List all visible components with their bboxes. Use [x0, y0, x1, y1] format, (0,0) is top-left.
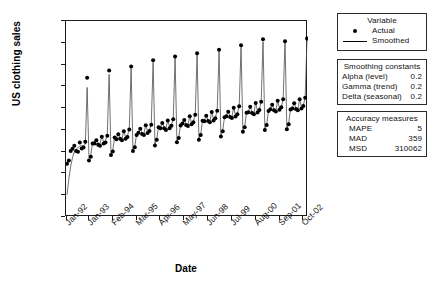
actual-data-point — [239, 43, 243, 47]
actual-data-point — [248, 105, 252, 109]
actual-data-point — [204, 114, 208, 118]
actual-data-point — [100, 135, 104, 139]
legend-box: Variable Actual Smoothed — [337, 13, 427, 51]
smoothing-row-delta: Delta (seasonal) 0.2 — [338, 92, 426, 102]
actual-data-point — [261, 37, 265, 41]
row-key: MSD — [342, 144, 395, 154]
actual-data-point — [243, 125, 247, 129]
actual-data-point — [164, 128, 168, 132]
actual-data-point — [230, 116, 234, 120]
actual-data-point — [72, 144, 76, 148]
actual-data-point — [268, 107, 272, 111]
accuracy-measures-title: Accuracy measures — [338, 112, 426, 124]
actual-data-point — [283, 39, 287, 43]
actual-data-point — [305, 36, 308, 40]
actual-data-point — [103, 140, 107, 144]
smoothed-line — [67, 39, 307, 195]
row-value: 0.2 — [411, 82, 422, 92]
row-key: MAD — [342, 134, 408, 144]
actual-data-point — [195, 51, 199, 55]
actual-data-point — [158, 126, 162, 130]
filled-circle-icon — [342, 29, 368, 33]
actual-data-point — [276, 99, 280, 103]
actual-data-point — [171, 117, 175, 121]
actual-data-point — [303, 96, 307, 100]
actual-data-point — [114, 137, 118, 141]
legend-title: Variable — [338, 14, 426, 26]
actual-data-point — [87, 159, 91, 163]
plot-panel: US clothing sales 18,00016,00014,00012,0… — [0, 0, 315, 287]
actual-data-point — [279, 105, 283, 109]
actual-data-point — [182, 118, 186, 122]
actual-data-point — [224, 114, 228, 118]
accuracy-measures-box: Accuracy measures MAPE 5 MAD 359 MSD 310… — [337, 111, 427, 157]
actual-data-point — [210, 110, 214, 114]
actual-data-point — [92, 142, 96, 146]
actual-data-point — [125, 135, 129, 139]
accuracy-row-msd: MSD 310062 — [338, 144, 426, 154]
actual-data-point — [237, 104, 241, 108]
row-value: 0.2 — [411, 72, 422, 82]
actual-data-point — [274, 109, 278, 113]
row-key: MAPE — [342, 124, 417, 134]
actual-data-point — [89, 155, 93, 159]
actual-data-point — [265, 123, 269, 127]
actual-data-point — [199, 133, 203, 137]
actual-data-point — [208, 120, 212, 124]
series-smoothed — [67, 39, 307, 195]
legend-item-actual: Actual — [338, 26, 426, 36]
legend-item-smoothed: Smoothed — [338, 36, 426, 46]
actual-data-point — [290, 106, 294, 110]
actual-data-point — [149, 123, 153, 127]
actual-data-point — [257, 108, 261, 112]
actual-data-point — [111, 149, 115, 153]
actual-data-point — [219, 135, 223, 139]
chart-root: US clothing sales 18,00016,00014,00012,0… — [0, 0, 435, 287]
actual-data-point — [160, 121, 164, 125]
actual-data-point — [215, 109, 219, 113]
actual-data-point — [254, 101, 258, 105]
actual-data-point — [81, 146, 85, 150]
actual-data-point — [193, 113, 197, 117]
actual-data-point — [94, 138, 98, 142]
row-value: 0.2 — [411, 92, 422, 102]
smoothing-row-gamma: Gamma (trend) 0.2 — [338, 82, 426, 92]
smoothing-row-alpha: Alpha (level) 0.2 — [338, 72, 426, 82]
actual-data-point — [191, 120, 195, 124]
actual-data-point — [221, 129, 225, 133]
row-key: Alpha (level) — [342, 72, 411, 82]
y-axis-title: US clothing sales — [11, 4, 22, 124]
smoothing-constants-box: Smoothing constants Alpha (level) 0.2 Ga… — [337, 59, 427, 105]
actual-data-point — [292, 101, 296, 105]
actual-data-point — [217, 48, 221, 52]
line-swatch-icon — [342, 41, 368, 42]
actual-data-point — [109, 153, 113, 157]
actual-data-point — [285, 127, 289, 131]
actual-data-point — [180, 122, 184, 126]
actual-data-point — [263, 128, 267, 132]
actual-data-point — [175, 140, 179, 144]
actual-data-point — [213, 116, 217, 120]
actual-data-point — [144, 123, 148, 127]
actual-data-point — [186, 124, 190, 128]
series-svg — [66, 21, 308, 217]
row-value: 310062 — [395, 144, 422, 154]
actual-data-point — [298, 97, 302, 101]
actual-data-point — [127, 128, 131, 132]
actual-data-point — [155, 138, 159, 142]
series-actual — [66, 36, 308, 165]
actual-data-point — [116, 132, 120, 136]
actual-data-point — [105, 134, 109, 138]
legend-item-label: Actual — [372, 26, 422, 36]
actual-data-point — [67, 158, 71, 162]
actual-data-point — [287, 122, 291, 126]
actual-data-point — [98, 144, 102, 148]
actual-data-point — [78, 140, 82, 144]
row-key: Gamma (trend) — [342, 82, 411, 92]
actual-data-point — [232, 106, 236, 110]
actual-data-point — [241, 130, 245, 134]
actual-data-point — [129, 64, 133, 68]
accuracy-row-mape: MAPE 5 — [338, 124, 426, 134]
actual-data-point — [235, 112, 239, 116]
actual-data-point — [188, 114, 192, 118]
